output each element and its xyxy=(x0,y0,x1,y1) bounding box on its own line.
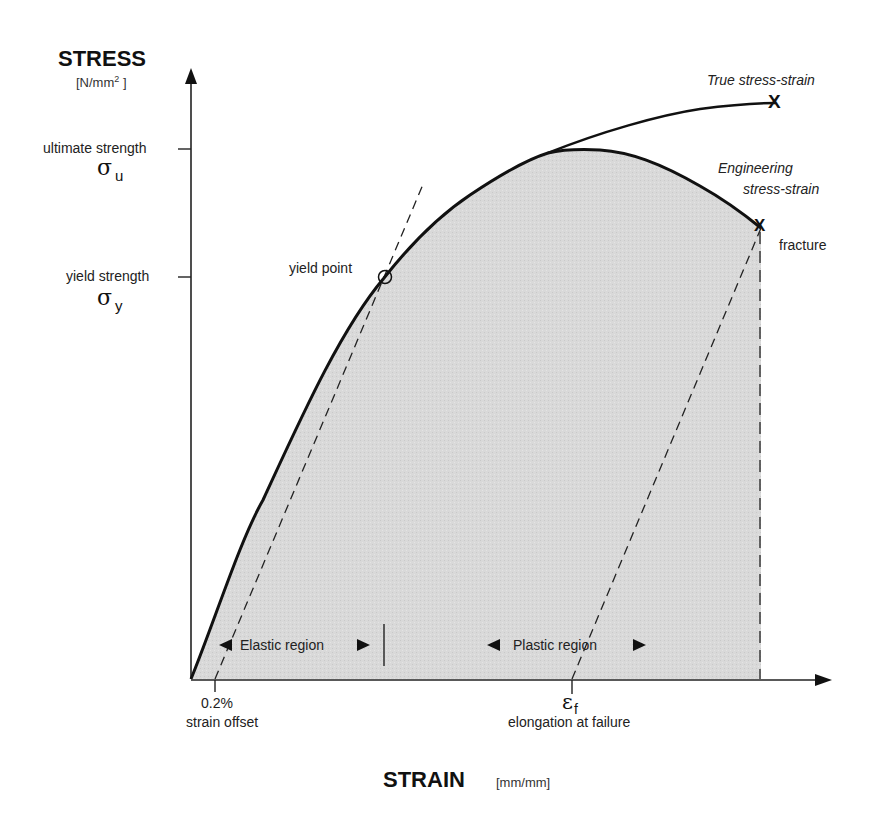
engineering-fracture-marker: X xyxy=(754,216,765,236)
sigma-u-symbol: σu xyxy=(97,155,120,180)
elastic-region-label: Elastic region xyxy=(240,637,324,653)
true-fracture-marker: X xyxy=(768,91,781,113)
y-axis-arrow-icon xyxy=(185,68,197,84)
x-axis-title: STRAIN xyxy=(383,767,465,793)
fracture-label: fracture xyxy=(779,237,826,253)
true-curve-label: True stress-strain xyxy=(707,72,815,88)
engineering-curve-label-1: Engineering xyxy=(718,160,793,176)
stress-strain-diagram xyxy=(0,0,886,832)
strain-offset-label: strain offset xyxy=(186,714,258,730)
y-axis-unit-base: [N/mm xyxy=(76,75,114,90)
epsilon-f-symbol: εf xyxy=(562,690,577,714)
epsilon-f-glyph: ε xyxy=(562,690,573,714)
y-axis-unit-end: ] xyxy=(119,75,126,90)
sigma-u-glyph: σ xyxy=(97,155,112,180)
ultimate-strength-label: ultimate strength xyxy=(43,140,147,156)
area-under-curve xyxy=(191,149,761,679)
strain-offset-value: 0.2% xyxy=(201,695,233,711)
true-curve xyxy=(548,103,776,153)
elongation-at-failure-label: elongation at failure xyxy=(508,714,630,730)
sigma-y-glyph: σ xyxy=(97,285,112,310)
sigma-y-symbol: σy xyxy=(97,285,120,310)
sigma-u-subscript: u xyxy=(115,167,123,184)
y-axis-unit: [N/mm2 ] xyxy=(76,74,127,90)
y-axis-title: STRESS xyxy=(58,46,146,72)
engineering-curve-label-2: stress-strain xyxy=(743,181,819,197)
plastic-region-label: Plastic region xyxy=(513,637,597,653)
yield-strength-label: yield strength xyxy=(66,268,149,284)
x-axis-unit: [mm/mm] xyxy=(496,775,550,790)
x-axis-arrow-icon xyxy=(815,674,832,686)
sigma-y-subscript: y xyxy=(115,297,123,314)
yield-point-label: yield point xyxy=(289,260,352,276)
